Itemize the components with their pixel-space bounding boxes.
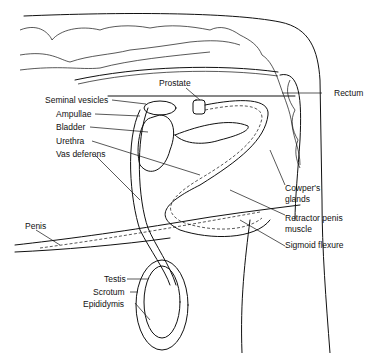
diagram-drawing <box>0 0 377 353</box>
prostate <box>193 100 205 114</box>
label-bladder: Bladder <box>56 123 85 132</box>
testis <box>144 266 180 338</box>
label-rectum: Rectum <box>334 89 363 98</box>
label-ampullae: Ampullae <box>56 110 91 119</box>
label-cowpers-glands-line2: glands <box>285 195 310 204</box>
label-vas-deferens: Vas deferens <box>56 150 105 159</box>
label-cowpers-glands-line1: Cowper's <box>285 184 320 193</box>
label-urethra: Urethra <box>56 137 84 146</box>
anatomy-diagram: Prostate Rectum Seminal vesicles Ampulla… <box>0 0 377 353</box>
label-scrotum: Scrotum <box>93 288 125 297</box>
label-seminal-vesicles: Seminal vesicles <box>45 96 108 105</box>
penis <box>15 205 300 245</box>
label-retractor-penis-line2: muscle <box>285 225 312 234</box>
label-penis: Penis <box>25 222 46 231</box>
label-epididymis: Epididymis <box>83 300 124 309</box>
label-retractor-penis-line1: Retractor penis <box>285 214 343 223</box>
seminal-vesicles <box>144 101 176 115</box>
label-sigmoid-flexure: Sigmoid flexure <box>285 241 344 250</box>
label-testis: Testis <box>104 275 126 284</box>
label-prostate: Prostate <box>159 79 191 88</box>
